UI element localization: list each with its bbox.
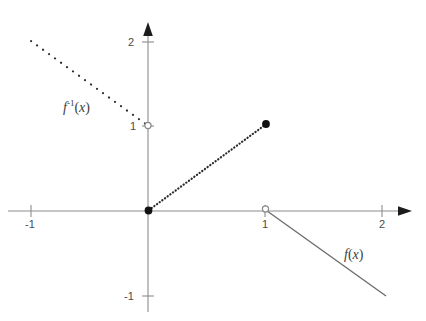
x-tick-label-pos2: 2 (379, 219, 385, 230)
f-inverse-paren-close: ) (85, 100, 90, 115)
open-circle-marker-1-0 (262, 206, 268, 212)
x-tick-label-pos1: 1 (262, 219, 268, 230)
f-curve-label: f(x) (344, 248, 363, 262)
y-tick-label-pos2: 2 (128, 37, 134, 48)
plot-canvas (0, 0, 426, 321)
y-axis-arrow-icon (143, 22, 153, 36)
filled-dot-marker-1-1 (262, 120, 270, 128)
f-paren-close: ) (359, 247, 364, 262)
identity-dotted-segment (149, 125, 265, 210)
x-axis-arrow-icon (398, 206, 412, 216)
open-circle-marker-0-1 (145, 122, 151, 128)
function-inverse-graph: -1 1 2 2 1 -1 f-1(x) f(x) (0, 0, 426, 321)
x-tick-label-neg1: -1 (25, 219, 35, 230)
f-inverse-curve-label: f-1(x) (63, 101, 90, 115)
y-tick-label-pos1: 1 (130, 121, 136, 132)
y-tick-label-neg1: -1 (124, 291, 134, 302)
filled-dot-marker-origin (145, 207, 153, 215)
f-curve (265, 210, 386, 297)
